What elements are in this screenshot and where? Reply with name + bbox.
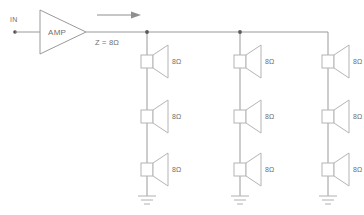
input-section: IN — [10, 16, 40, 34]
speaker-row-3: 8Ω 8Ω 8Ω — [141, 153, 363, 186]
speaker-coil — [322, 55, 334, 68]
output-impedance-label: Z = 8Ω — [95, 38, 119, 47]
speaker-cone — [334, 100, 349, 133]
speaker-coil — [322, 163, 334, 176]
circuit-diagram-svg: IN AMP Z = 8Ω 8 — [0, 0, 364, 215]
speaker-row-2: 8Ω 8Ω 8Ω — [141, 100, 363, 133]
ground-symbols — [138, 196, 337, 204]
signal-flow-arrow-icon — [97, 12, 141, 19]
speaker-impedance-label: 8Ω — [265, 113, 275, 120]
ground-icon-3 — [319, 196, 337, 204]
speaker-cone — [246, 45, 261, 78]
ground-icon-2 — [231, 196, 249, 204]
speaker-impedance-label: 8Ω — [353, 113, 363, 120]
speaker-cone — [246, 153, 261, 186]
speaker-impedance-label: 8Ω — [172, 166, 182, 173]
speaker-impedance-label: 8Ω — [353, 58, 363, 65]
amplifier-block[interactable]: AMP — [40, 10, 86, 54]
speaker-cone — [153, 100, 168, 133]
speaker-coil — [234, 55, 246, 68]
speaker-impedance-label: 8Ω — [172, 58, 182, 65]
speaker-coil — [141, 163, 153, 176]
speaker-cone — [153, 45, 168, 78]
speaker-cone — [153, 153, 168, 186]
speaker-coil — [234, 163, 246, 176]
speaker-impedance-label: 8Ω — [172, 113, 182, 120]
speaker-cone — [334, 45, 349, 78]
amplifier-label: AMP — [48, 28, 66, 37]
arrow-head — [131, 12, 141, 19]
ground-icon-1 — [138, 196, 156, 204]
speaker-impedance-label: 8Ω — [265, 58, 275, 65]
speaker-impedance-label: 8Ω — [265, 166, 275, 173]
speaker-coil — [141, 110, 153, 123]
speaker-cone — [246, 100, 261, 133]
speaker-coil — [234, 110, 246, 123]
speaker-row-1: 8Ω 8Ω 8Ω — [141, 45, 363, 78]
output-bus — [86, 30, 328, 196]
speaker-cone — [334, 153, 349, 186]
speaker-impedance-label: 8Ω — [353, 166, 363, 173]
speaker-coil — [322, 110, 334, 123]
speaker-coil — [141, 55, 153, 68]
junction-node-2 — [238, 30, 242, 34]
input-label: IN — [10, 16, 18, 23]
circuit-diagram-canvas: IN AMP Z = 8Ω 8 — [0, 0, 364, 215]
junction-node-1 — [145, 30, 149, 34]
